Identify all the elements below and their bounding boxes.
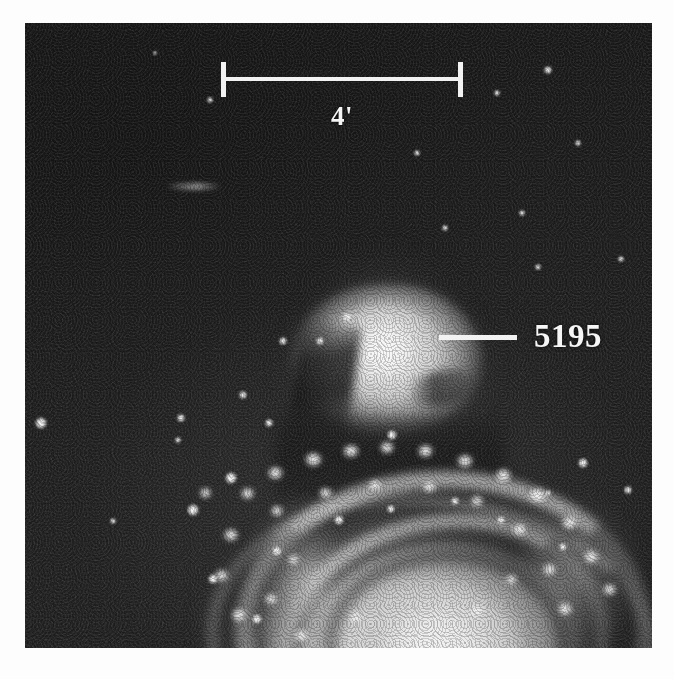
object-label-pointer	[439, 335, 517, 340]
figure-page: 4' 5195	[0, 0, 674, 679]
astronomical-plate: 4' 5195	[25, 23, 652, 648]
scale-bar-rule	[221, 77, 463, 81]
scale-bar-label: 4'	[221, 101, 463, 132]
scale-bar	[221, 62, 463, 98]
object-label-5195: 5195	[534, 318, 602, 355]
scale-bar-cap-right	[458, 62, 463, 97]
